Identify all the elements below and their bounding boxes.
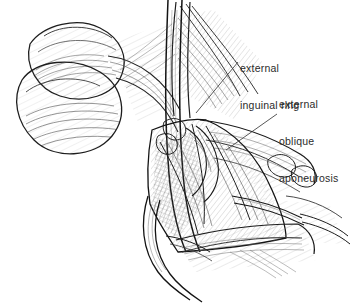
- label-line: external: [279, 98, 339, 110]
- label-external-oblique-aponeurosis: external oblique aponeurosis: [279, 74, 339, 208]
- illustration-page: external inguinal ring external oblique …: [0, 0, 352, 305]
- label-line: oblique: [279, 135, 339, 147]
- label-line: aponeurosis: [279, 172, 339, 184]
- label-line: external: [240, 62, 299, 74]
